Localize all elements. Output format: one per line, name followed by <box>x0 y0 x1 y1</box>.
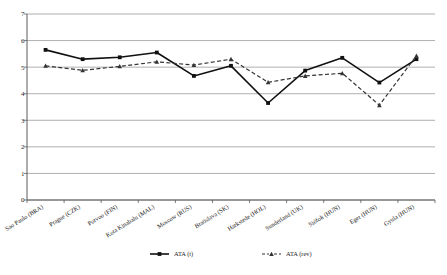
y-axis-label-4: 4 <box>21 90 25 98</box>
data-point-0-7 <box>303 69 307 73</box>
data-point-0-5 <box>229 64 233 68</box>
chart-background <box>0 0 447 275</box>
y-axis-label-3: 3 <box>21 117 25 125</box>
y-axis-label-7: 7 <box>21 10 25 18</box>
y-axis-label-5: 5 <box>21 64 25 72</box>
chart-canvas: 01234567Sao Paulo (BRA)Prague (CZK)Porvo… <box>0 0 447 275</box>
data-point-0-1 <box>81 57 85 61</box>
data-point-0-9 <box>377 81 381 85</box>
data-point-0-8 <box>340 56 344 60</box>
legend-label-1: ATA (rev) <box>286 250 312 258</box>
y-axis-label-0: 0 <box>21 196 25 204</box>
y-axis-label-1: 1 <box>21 170 25 178</box>
y-axis-label-2: 2 <box>21 143 25 151</box>
line-chart: 01234567Sao Paulo (BRA)Prague (CZK)Porvo… <box>0 0 447 275</box>
data-point-0-0 <box>44 48 48 52</box>
data-point-0-4 <box>192 74 196 78</box>
data-point-0-2 <box>118 55 122 59</box>
y-axis-label-6: 6 <box>21 37 25 45</box>
data-point-0-6 <box>266 101 270 105</box>
data-point-0-3 <box>155 51 159 55</box>
legend-label-0: ATA (t) <box>174 250 193 258</box>
legend-marker-0 <box>158 252 162 256</box>
